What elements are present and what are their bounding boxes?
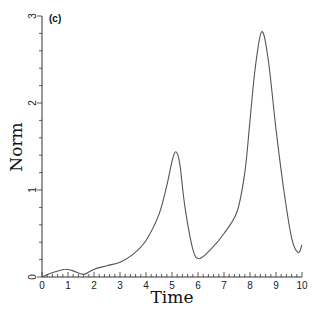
x-tick-label: 0 xyxy=(39,280,45,291)
norm-series-line xyxy=(42,32,302,277)
y-tick-label: 1 xyxy=(27,187,38,193)
x-tick-label: 7 xyxy=(221,280,227,291)
axes: 0123456789100123 xyxy=(27,13,308,291)
y-tick-label: 3 xyxy=(27,13,38,19)
y-tick-label: 2 xyxy=(27,100,38,106)
x-tick-label: 2 xyxy=(91,280,97,291)
y-axis-title: Norm xyxy=(6,122,26,171)
x-tick-label: 4 xyxy=(143,280,149,291)
x-tick-label: 10 xyxy=(296,280,308,291)
x-tick-label: 9 xyxy=(273,280,279,291)
x-tick-label: 3 xyxy=(117,280,123,291)
x-axis-title: Time xyxy=(151,287,194,307)
panel-label: (c) xyxy=(49,13,61,24)
line-chart: 0123456789100123 (c) Time Norm xyxy=(0,0,322,320)
x-tick-label: 6 xyxy=(195,280,201,291)
x-tick-label: 1 xyxy=(65,280,71,291)
x-tick-label: 8 xyxy=(247,280,253,291)
y-tick-label: 0 xyxy=(27,274,38,280)
